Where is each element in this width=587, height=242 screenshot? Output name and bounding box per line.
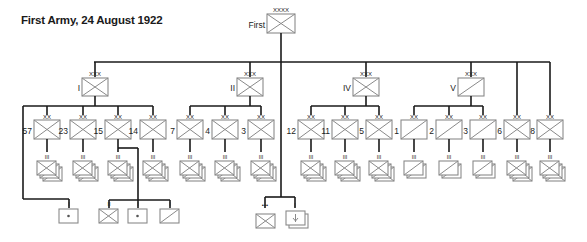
- division-name: 3: [463, 126, 468, 136]
- division-symbol-3: [470, 120, 496, 139]
- corps-symbol-II: [237, 78, 263, 96]
- echelon-label: XX: [445, 114, 453, 120]
- echelon-label: XX: [43, 114, 51, 120]
- attached-artillery-symbol: [59, 209, 78, 223]
- division-symbol-6: [504, 120, 530, 139]
- echelon-label: XX: [341, 114, 349, 120]
- echelon-label: II: [107, 201, 111, 207]
- echelon-label: III: [377, 154, 382, 160]
- echelon-label: III: [515, 154, 520, 160]
- echelon-label: XX: [79, 114, 87, 120]
- division-symbol-2: [436, 120, 462, 139]
- division-name: 2: [429, 126, 434, 136]
- corps-name: V: [450, 83, 456, 93]
- division-name: 1: [394, 126, 399, 136]
- echelon-label: XX: [410, 114, 418, 120]
- echelon-label: III: [481, 154, 486, 160]
- regiment-stack: [108, 161, 127, 175]
- division-symbol-3: [248, 120, 274, 139]
- regiment-stack: [439, 161, 458, 175]
- division-name: 14: [129, 126, 139, 136]
- echelon-label: III: [223, 154, 228, 160]
- division-name: 8: [530, 126, 535, 136]
- echelon-label: III: [188, 154, 193, 160]
- division-name: 4: [205, 126, 210, 136]
- division-symbol-7: [177, 120, 203, 139]
- corps-symbol-IV: [353, 78, 379, 96]
- army-name: First: [248, 20, 265, 30]
- division-symbol-8: [537, 120, 563, 139]
- regiment-stack: [301, 161, 320, 175]
- artillery-dot-icon: [136, 215, 139, 218]
- echelon-label: XX: [513, 114, 521, 120]
- echelon-label: XX: [479, 114, 487, 120]
- echelon-label: III: [259, 154, 264, 160]
- division-name: 3: [241, 126, 246, 136]
- echelon-label: XX: [149, 114, 157, 120]
- regiment-stack: [540, 161, 559, 175]
- regiment-stack: [37, 161, 56, 175]
- echelon-label: XX: [546, 114, 554, 120]
- echelon-label: XXX: [465, 71, 477, 77]
- corps-symbol-I: [82, 78, 108, 96]
- attached-unit-symbol: [99, 209, 118, 223]
- echelon-label: III: [151, 154, 156, 160]
- echelon-label: III: [343, 154, 348, 160]
- echelon-label: III: [548, 154, 553, 160]
- echelon-label: XX: [186, 114, 194, 120]
- division-symbol-1: [401, 120, 427, 139]
- echelon-label: XXX: [89, 71, 101, 77]
- regiment-stack: [180, 161, 199, 175]
- regiment-stack: [369, 161, 388, 175]
- echelon-label: I: [169, 201, 171, 207]
- regiment-stack: [143, 161, 162, 175]
- echelon-label: •••: [262, 202, 268, 208]
- attached-unit-symbol: [160, 209, 179, 223]
- regiment-stack: [473, 161, 492, 175]
- division-symbol-12: [298, 120, 324, 139]
- echelon-label: III: [116, 154, 121, 160]
- corps-name: II: [230, 83, 235, 93]
- regiment-stack: [251, 161, 270, 175]
- regiment-stack: [215, 161, 234, 175]
- echelon-label: XX: [257, 114, 265, 120]
- army-troops-stack: [286, 211, 305, 225]
- division-symbol-15: [105, 120, 131, 139]
- regiment-stack: [73, 161, 92, 175]
- division-symbol-11: [332, 120, 358, 139]
- corps-name: IV: [343, 83, 351, 93]
- division-name: 23: [59, 126, 69, 136]
- army-symbol: [267, 14, 295, 33]
- artillery-dot-icon: [67, 215, 70, 218]
- echelon-label: XXX: [360, 71, 372, 77]
- echelon-label: III: [412, 154, 417, 160]
- echelon-label: I: [68, 201, 70, 207]
- echelon-label: XXXX: [273, 7, 289, 13]
- echelon-label: XX: [307, 114, 315, 120]
- echelon-label: XX: [375, 114, 383, 120]
- division-name: 6: [497, 126, 502, 136]
- regiment-stack: [335, 161, 354, 175]
- division-symbol-5: [366, 120, 392, 139]
- division-name: 7: [170, 126, 175, 136]
- regiment-stack: [507, 161, 526, 175]
- echelon-label: XX: [221, 114, 229, 120]
- corps-name: I: [78, 83, 80, 93]
- division-name: 12: [287, 126, 297, 136]
- army-troops-symbol: [256, 214, 275, 228]
- echelon-label: XX: [114, 114, 122, 120]
- echelon-label: III: [81, 154, 86, 160]
- division-symbol-23: [70, 120, 96, 139]
- division-name: 57: [23, 126, 33, 136]
- echelon-label: III: [447, 154, 452, 160]
- division-symbol-57: [34, 120, 60, 139]
- regiment-stack: [404, 161, 423, 175]
- attached-unit-symbol: [128, 209, 147, 223]
- echelon-label: XXX: [244, 71, 256, 77]
- echelon-label: III: [45, 154, 50, 160]
- corps-symbol-V: [458, 78, 484, 96]
- echelon-label: I: [294, 202, 296, 208]
- division-symbol-4: [212, 120, 238, 139]
- echelon-label: I: [137, 201, 139, 207]
- echelon-label: III: [309, 154, 314, 160]
